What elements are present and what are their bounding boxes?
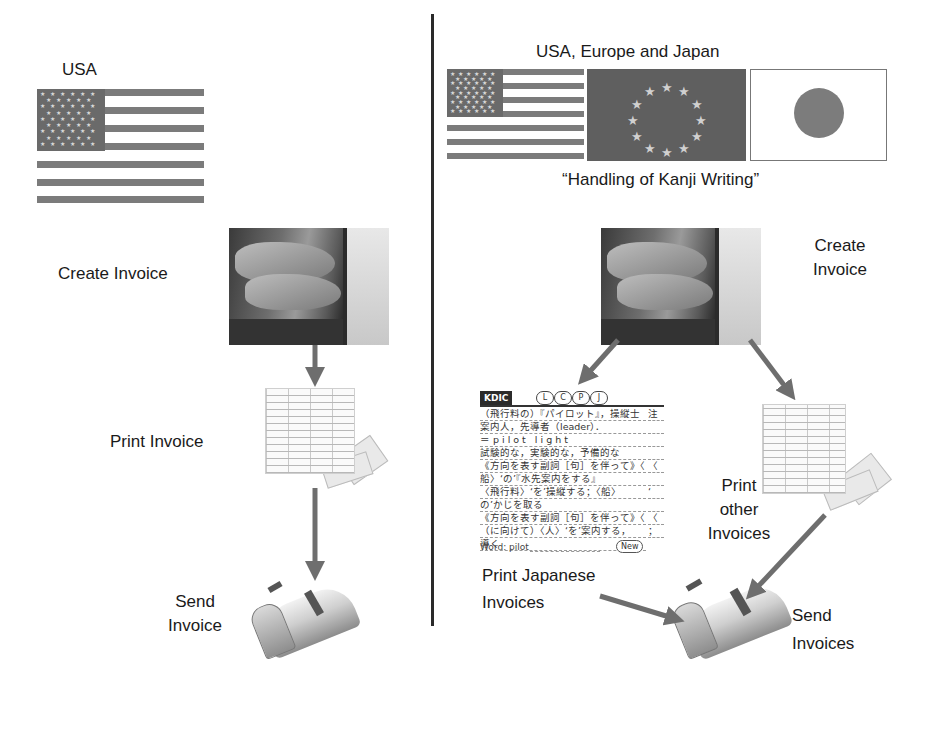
arrow-print-other-to-send (752, 515, 825, 593)
arrow-create-to-print-japanese (584, 340, 618, 378)
flow-arrows (0, 0, 930, 732)
arrow-create-to-print-other (750, 340, 790, 393)
arrow-print-japanese-to-send (600, 596, 676, 619)
